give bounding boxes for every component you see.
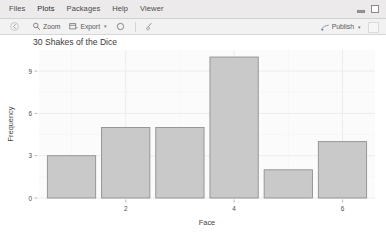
x-tick-label: 2 — [124, 205, 128, 212]
export-icon — [69, 22, 78, 31]
zoom-label: Zoom — [43, 20, 60, 34]
tab-viewer[interactable]: Viewer — [140, 0, 170, 18]
back-arrow-icon[interactable] — [10, 22, 19, 31]
bar — [156, 128, 204, 198]
bar — [264, 170, 312, 198]
magnifier-icon — [32, 22, 41, 31]
bar — [318, 142, 366, 198]
dice-frequency-bar-chart: 30 Shakes of the Dice0369246FaceFrequenc… — [0, 36, 386, 246]
export-label: Export — [80, 20, 100, 34]
bar — [102, 128, 150, 198]
x-axis-label: Face — [199, 218, 215, 227]
tab-files[interactable]: Files — [9, 0, 32, 18]
bar — [210, 57, 258, 198]
publish-button[interactable]: Publish ▾ — [320, 20, 361, 34]
x-tick-label: 6 — [341, 205, 345, 212]
zoom-button[interactable]: Zoom — [32, 20, 60, 34]
remove-plot-icon[interactable] — [116, 22, 125, 31]
publish-icon — [320, 23, 330, 32]
refresh-icon[interactable] — [368, 22, 379, 33]
pane-tabstrip: Files Plots Packages Help Viewer — [0, 0, 386, 19]
maximize-icon[interactable] — [370, 5, 380, 14]
chart-title: 30 Shakes of the Dice — [33, 37, 117, 47]
y-tick-label: 3 — [28, 152, 32, 159]
toolbar-right-group: Publish ▾ — [320, 19, 379, 35]
plot-canvas: 30 Shakes of the Dice0369246FaceFrequenc… — [0, 36, 386, 246]
y-tick-label: 6 — [28, 110, 32, 117]
rstudio-plots-pane: Files Plots Packages Help Viewer Zoom — [0, 0, 386, 246]
broom-icon[interactable] — [144, 22, 153, 32]
tab-packages[interactable]: Packages — [67, 0, 108, 18]
plots-toolbar: Zoom Export ▾ — [0, 19, 386, 35]
tab-plots[interactable]: Plots — [37, 0, 61, 18]
publish-label: Publish — [332, 20, 354, 34]
chevron-down-icon: ▾ — [358, 25, 361, 30]
chevron-down-icon: ▾ — [104, 24, 107, 29]
y-tick-label: 9 — [28, 68, 32, 75]
y-tick-label: 0 — [28, 195, 32, 202]
x-tick-label: 4 — [232, 205, 236, 212]
minimize-icon[interactable] — [356, 5, 366, 14]
bar — [47, 156, 95, 198]
tab-help[interactable]: Help — [112, 0, 135, 18]
window-controls — [356, 5, 380, 14]
y-axis-label: Frequency — [6, 106, 15, 141]
toolbar-divider — [135, 22, 136, 32]
export-button[interactable]: Export ▾ — [69, 20, 107, 34]
